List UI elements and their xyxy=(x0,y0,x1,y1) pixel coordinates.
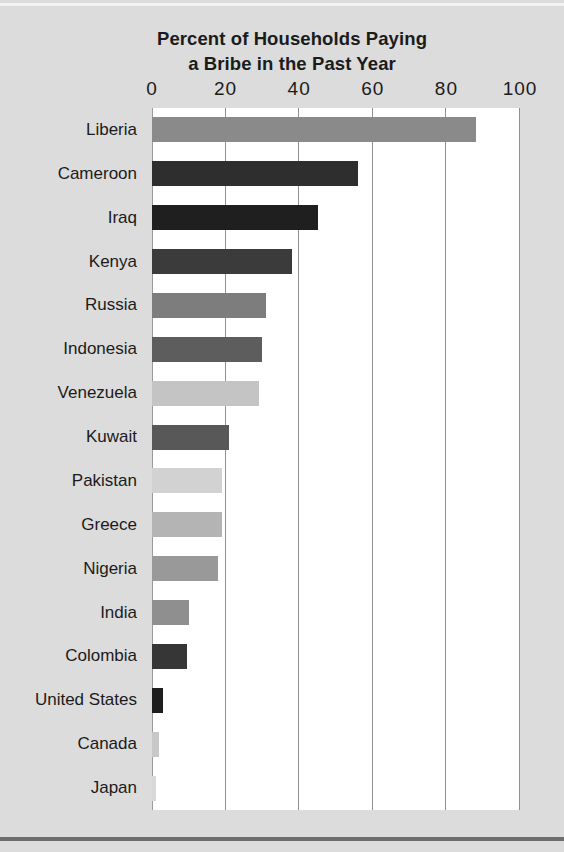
bar-pakistan xyxy=(152,468,222,493)
bar-row xyxy=(152,678,520,722)
bar-row xyxy=(152,415,520,459)
x-tick-label-20: 20 xyxy=(214,78,237,100)
bar-kenya xyxy=(152,249,292,274)
bar-nigeria xyxy=(152,556,218,581)
bar-row xyxy=(152,547,520,591)
category-label-india: India xyxy=(0,591,146,635)
bar-cameroon xyxy=(152,161,358,186)
category-label-venezuela: Venezuela xyxy=(0,371,146,415)
bar-row xyxy=(152,240,520,284)
bar-row xyxy=(152,459,520,503)
x-tick-label-100: 100 xyxy=(503,78,538,100)
x-tick-label-40: 40 xyxy=(288,78,311,100)
bar-chart-figure: Percent of Households Paying a Bribe in … xyxy=(0,0,564,837)
category-label-russia: Russia xyxy=(0,284,146,328)
bar-colombia xyxy=(152,644,187,669)
bar-row xyxy=(152,722,520,766)
bar-liberia xyxy=(152,117,476,142)
bar-iraq xyxy=(152,205,318,230)
bar-united-states xyxy=(152,688,163,713)
bar-row xyxy=(152,152,520,196)
category-label-japan: Japan xyxy=(0,766,146,810)
bar-greece xyxy=(152,512,222,537)
category-label-liberia: Liberia xyxy=(0,108,146,152)
bar-row xyxy=(152,108,520,152)
bar-canada xyxy=(152,732,159,757)
chart-title: Percent of Households Paying a Bribe in … xyxy=(82,26,502,76)
category-label-canada: Canada xyxy=(0,722,146,766)
bar-row xyxy=(152,766,520,810)
x-tick-label-0: 0 xyxy=(146,78,158,100)
chart-page: Percent of Households Paying a Bribe in … xyxy=(0,0,564,852)
plot-area xyxy=(152,108,520,810)
bar-row xyxy=(152,591,520,635)
chart-title-line-1: Percent of Households Paying xyxy=(157,28,427,49)
x-tick-label-60: 60 xyxy=(361,78,384,100)
x-axis-tick-labels: 020406080100 xyxy=(0,78,564,102)
bar-japan xyxy=(152,776,156,801)
bar-indonesia xyxy=(152,337,262,362)
category-label-iraq: Iraq xyxy=(0,196,146,240)
category-label-kuwait: Kuwait xyxy=(0,415,146,459)
bar-row xyxy=(152,503,520,547)
category-label-pakistan: Pakistan xyxy=(0,459,146,503)
category-label-kenya: Kenya xyxy=(0,240,146,284)
bar-row xyxy=(152,371,520,415)
bar-row xyxy=(152,635,520,679)
category-label-greece: Greece xyxy=(0,503,146,547)
bar-row xyxy=(152,196,520,240)
bar-venezuela xyxy=(152,381,259,406)
category-label-nigeria: Nigeria xyxy=(0,547,146,591)
bar-kuwait xyxy=(152,425,229,450)
bar-row xyxy=(152,327,520,371)
category-axis-labels: LiberiaCameroonIraqKenyaRussiaIndonesiaV… xyxy=(0,108,146,810)
bar-russia xyxy=(152,293,266,318)
bar-india xyxy=(152,600,189,625)
category-label-united-states: United States xyxy=(0,678,146,722)
category-label-indonesia: Indonesia xyxy=(0,327,146,371)
chart-title-line-2: a Bribe in the Past Year xyxy=(82,51,502,76)
x-tick-label-80: 80 xyxy=(435,78,458,100)
category-label-colombia: Colombia xyxy=(0,635,146,679)
bar-row xyxy=(152,284,520,328)
bottom-divider xyxy=(0,837,564,841)
category-label-cameroon: Cameroon xyxy=(0,152,146,196)
